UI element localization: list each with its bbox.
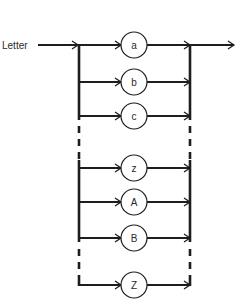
node-Z: Z	[79, 272, 190, 298]
node-label: b	[131, 77, 137, 88]
node-z: z	[79, 155, 190, 181]
node-c: c	[79, 103, 190, 129]
letter-syntax-diagram: Letter a b c	[0, 0, 238, 304]
node-a: a	[121, 32, 147, 58]
node-label: z	[132, 163, 137, 174]
node-A: A	[79, 189, 190, 215]
entry-label: Letter	[2, 40, 28, 51]
node-B: B	[79, 225, 190, 251]
node-label: B	[131, 233, 138, 244]
node-label: c	[132, 111, 137, 122]
node-label: Z	[131, 280, 137, 291]
node-label: A	[131, 197, 138, 208]
node-label: a	[131, 40, 137, 51]
node-b: b	[79, 69, 190, 95]
